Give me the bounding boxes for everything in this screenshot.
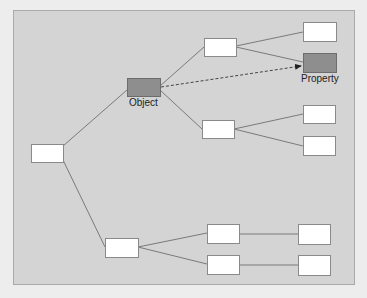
- node-right-4[interactable]: [303, 136, 336, 156]
- node-lower-mid[interactable]: [202, 120, 235, 139]
- edge-object-upper-mid: [160, 47, 204, 86]
- node-right-top[interactable]: [303, 22, 337, 42]
- node-bottom-mid[interactable]: [105, 238, 139, 258]
- edge-lower-mid-right-3: [234, 114, 303, 129]
- node-right-3[interactable]: [303, 105, 336, 124]
- node-bottom-leaf-1[interactable]: [298, 224, 331, 245]
- node-property[interactable]: [303, 53, 337, 73]
- property-label: Property: [301, 73, 339, 84]
- node-bottom-branch-2[interactable]: [207, 255, 240, 275]
- edge-lower-mid-right-4: [234, 129, 303, 146]
- edge-root-object: [63, 90, 127, 146]
- node-object[interactable]: [127, 78, 161, 97]
- edge-bottom-mid-branch-1: [138, 233, 207, 247]
- object-label: Object: [129, 97, 158, 108]
- edge-upper-mid-right-top: [236, 32, 303, 46]
- edge-bottom-mid-branch-2: [138, 247, 207, 264]
- edge-root-bottom-mid: [63, 160, 105, 247]
- edge-object-lower-mid: [160, 90, 202, 129]
- node-bottom-branch-1[interactable]: [207, 224, 240, 244]
- node-root[interactable]: [31, 144, 64, 163]
- edge-object-property-dashed-arrow: [161, 66, 301, 87]
- edge-upper-mid-property: [236, 47, 303, 62]
- node-bottom-leaf-2[interactable]: [298, 255, 331, 276]
- node-upper-mid[interactable]: [204, 38, 237, 57]
